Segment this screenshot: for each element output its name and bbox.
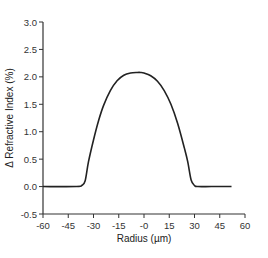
x-tick-label: 60 bbox=[240, 220, 251, 231]
y-tick-label: 2.0 bbox=[24, 71, 37, 82]
y-tick-label: -0.5 bbox=[21, 209, 37, 220]
y-tick-label: 0.0 bbox=[24, 181, 37, 192]
y-tick-label: 0.5 bbox=[24, 154, 37, 165]
x-tick-label: -30 bbox=[87, 220, 101, 231]
y-tick-label: 1.5 bbox=[24, 99, 37, 110]
x-tick-label: 45 bbox=[214, 220, 225, 231]
x-tick-label: -0 bbox=[140, 220, 148, 231]
profile-curve bbox=[43, 72, 232, 186]
y-axis-title: Δ Refractive Index (%) bbox=[4, 68, 15, 168]
y-tick-label: 2.5 bbox=[24, 44, 37, 55]
refractive-index-chart: -0.50.00.51.01.52.02.53.0 -60-45-30-15-0… bbox=[0, 0, 268, 258]
x-tick-label: -45 bbox=[61, 220, 75, 231]
x-tick-label: -60 bbox=[36, 220, 50, 231]
y-tick-label: 1.0 bbox=[24, 126, 37, 137]
x-tick-label: -15 bbox=[112, 220, 126, 231]
x-tick-label: 30 bbox=[189, 220, 200, 231]
x-axis: -60-45-30-15-015304560 bbox=[36, 214, 250, 231]
y-axis: -0.50.00.51.01.52.02.53.0 bbox=[21, 17, 43, 220]
x-axis-title: Radius (µm) bbox=[117, 233, 172, 244]
x-tick-label: 15 bbox=[164, 220, 175, 231]
y-tick-label: 3.0 bbox=[24, 17, 37, 28]
